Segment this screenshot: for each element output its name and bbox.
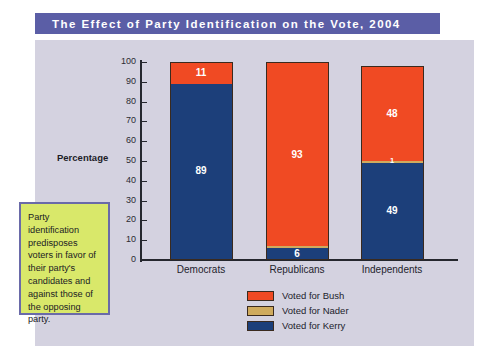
bar-segment[interactable]: 93: [266, 62, 329, 246]
y-axis-tick-label: 50: [108, 155, 136, 165]
y-axis-tick-label: 90: [108, 76, 136, 86]
y-axis-tick-label: 40: [108, 175, 136, 185]
y-axis-tick: [142, 161, 147, 162]
bar-value-label: 93: [291, 150, 302, 160]
legend-swatch: [247, 321, 274, 331]
annotation-text: Party identification predisposes voters …: [28, 211, 102, 326]
x-axis-category-label: Independents: [337, 264, 447, 275]
y-axis-tick: [142, 102, 147, 103]
legend-label: Voted for Bush: [282, 290, 344, 301]
y-axis-tick-label: 30: [108, 195, 136, 205]
y-axis-tick-labels: 0102030405060708090100: [106, 0, 136, 354]
y-axis-tick: [142, 62, 147, 63]
bar-stack[interactable]: 1189: [170, 62, 233, 260]
y-axis-tick: [142, 121, 147, 122]
y-axis-tick-label: 70: [108, 115, 136, 125]
y-axis-tick: [142, 82, 147, 83]
annotation-callout: Party identification predisposes voters …: [19, 202, 110, 315]
y-axis-tick: [142, 141, 147, 142]
chart-legend: Voted for BushVoted for NaderVoted for K…: [247, 288, 349, 333]
y-axis-tick-label: 20: [108, 214, 136, 224]
bar-value-label: 49: [386, 206, 397, 216]
y-axis-title: Percentage: [57, 152, 108, 163]
legend-item[interactable]: Voted for Nader: [247, 303, 349, 318]
y-axis-tick: [142, 240, 147, 241]
y-axis-tick: [142, 181, 147, 182]
y-axis-tick-label: 0: [108, 254, 136, 264]
bar-value-label: 89: [195, 166, 206, 176]
bar-value-label: 11: [196, 68, 207, 78]
bar-segment[interactable]: 49: [361, 163, 424, 260]
legend-item[interactable]: Voted for Bush: [247, 288, 349, 303]
bar-segment[interactable]: 11: [170, 62, 233, 84]
legend-swatch: [247, 306, 274, 316]
y-axis-tick-label: 10: [108, 234, 136, 244]
legend-label: Voted for Kerry: [282, 320, 345, 331]
x-axis-category-label: Republicans: [242, 264, 352, 275]
bar-segment[interactable]: 48: [361, 66, 424, 161]
bar-value-label: 6: [294, 249, 300, 259]
bar-segment[interactable]: 6: [266, 248, 329, 260]
chart-figure: The Effect of Party Identification on th…: [0, 0, 491, 354]
bar-value-label: 48: [386, 109, 397, 119]
legend-swatch: [247, 291, 274, 301]
page-title: The Effect of Party Identification on th…: [35, 18, 401, 30]
y-axis-tick-label: 60: [108, 135, 136, 145]
x-axis-category-label: Democrats: [146, 264, 256, 275]
bar-segment[interactable]: 89: [170, 84, 233, 260]
legend-label: Voted for Nader: [282, 305, 349, 316]
chart-title-banner: The Effect of Party Identification on th…: [35, 13, 440, 34]
y-axis-tick: [142, 201, 147, 202]
bar-stack[interactable]: 936: [266, 62, 329, 260]
y-axis-tick-label: 100: [108, 56, 136, 66]
y-axis-tick-label: 80: [108, 96, 136, 106]
legend-item[interactable]: Voted for Kerry: [247, 318, 349, 333]
bar-stack[interactable]: 48149: [361, 62, 424, 260]
y-axis-tick: [142, 220, 147, 221]
y-axis-tick: [142, 260, 147, 261]
